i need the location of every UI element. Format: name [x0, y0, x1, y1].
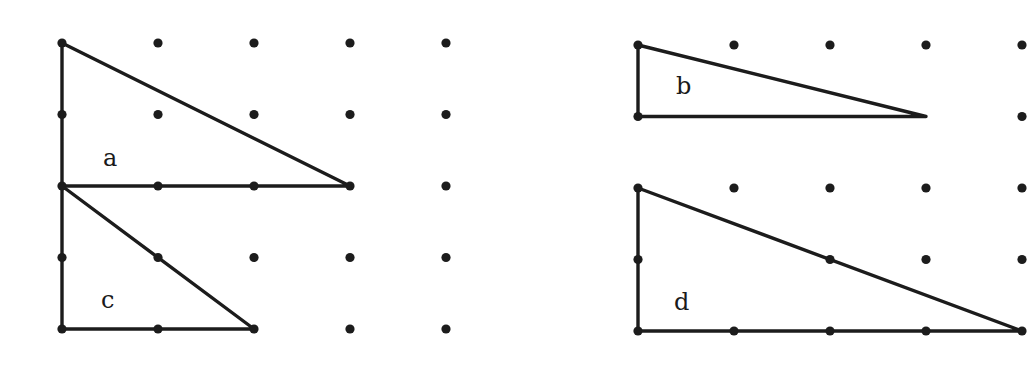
- grid-dot: [921, 183, 930, 192]
- grid-dot: [729, 40, 738, 49]
- grid-dot: [441, 110, 450, 119]
- triangle-c: [62, 186, 254, 329]
- grid-dot: [345, 253, 354, 262]
- grid-dot: [1017, 255, 1026, 264]
- grid-dot: [153, 38, 162, 47]
- grid-dot: [441, 181, 450, 190]
- grid-dot: [441, 324, 450, 333]
- grid-dot: [825, 183, 834, 192]
- grid-dot: [153, 110, 162, 119]
- dot-grid-figure: [0, 0, 1034, 374]
- grid-dot: [345, 324, 354, 333]
- grid-dot: [249, 38, 258, 47]
- triangle-label-b: b: [676, 74, 691, 98]
- grid-dot: [249, 110, 258, 119]
- triangles: [62, 43, 1022, 331]
- grid-dot: [441, 38, 450, 47]
- grid-dot: [921, 255, 930, 264]
- grid-dot: [1017, 183, 1026, 192]
- grid-dot: [729, 183, 738, 192]
- triangle-label-d: d: [674, 290, 689, 314]
- grid-dot: [249, 253, 258, 262]
- grid-dot: [1017, 112, 1026, 121]
- grid-dot: [825, 40, 834, 49]
- grid-dot: [921, 40, 930, 49]
- triangle-d: [638, 188, 1022, 331]
- grid-dot: [1017, 40, 1026, 49]
- grid-dot: [441, 253, 450, 262]
- grid-dot: [345, 38, 354, 47]
- triangle-label-c: c: [101, 288, 114, 312]
- grid-dot: [345, 110, 354, 119]
- triangle-label-a: a: [103, 146, 117, 170]
